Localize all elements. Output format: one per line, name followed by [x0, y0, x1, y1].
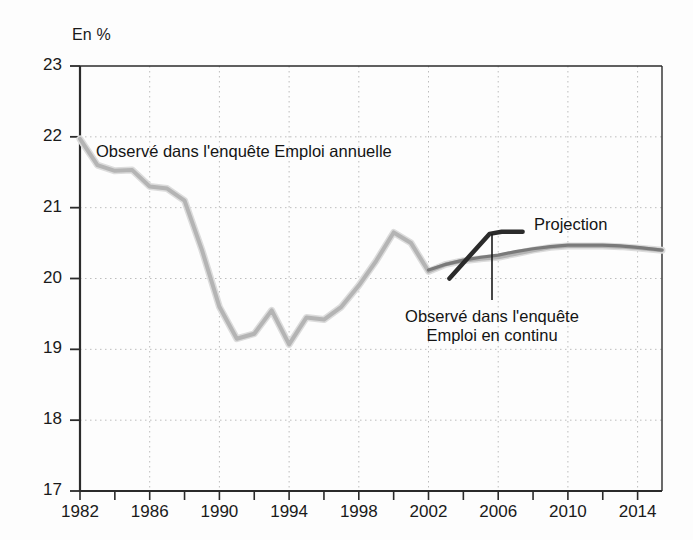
y-axis-tick-label: 22 [22, 126, 62, 146]
x-axis-tick-label: 1986 [115, 502, 185, 522]
y-axis-tick-label: 19 [22, 338, 62, 358]
y-axis-tick-label: 23 [22, 55, 62, 75]
x-axis-tick-label: 2006 [463, 502, 533, 522]
y-axis-tick-label: 21 [22, 197, 62, 217]
x-axis-tick-label: 1990 [184, 502, 254, 522]
y-axis-unit-label: En % [72, 26, 111, 44]
x-axis-tick-label: 2002 [394, 502, 464, 522]
annotation-annual-survey: Observé dans l'enquête Emploi annuelle [96, 142, 392, 161]
x-axis-tick-label: 1994 [254, 502, 324, 522]
chart-plot-svg [0, 0, 693, 540]
annotation-projection: Projection [534, 215, 607, 234]
x-axis-tick-label: 1998 [324, 502, 394, 522]
y-axis-tick-label: 17 [22, 480, 62, 500]
gridlines-group [80, 66, 662, 491]
x-axis-tick-label: 1982 [45, 502, 115, 522]
annotation-continuous-survey-line2: Emploi en continu [382, 326, 602, 345]
annotation-continuous-survey-line1: Observé dans l'enquête [382, 307, 602, 326]
x-axis-tick-label: 2010 [533, 502, 603, 522]
axis-ticks-group [70, 66, 638, 500]
y-axis-tick-label: 20 [22, 268, 62, 288]
chart-container: En % 23222120191817 19821986199019941998… [0, 0, 693, 540]
y-axis-tick-label: 18 [22, 409, 62, 429]
x-axis-tick-label: 2014 [603, 502, 673, 522]
